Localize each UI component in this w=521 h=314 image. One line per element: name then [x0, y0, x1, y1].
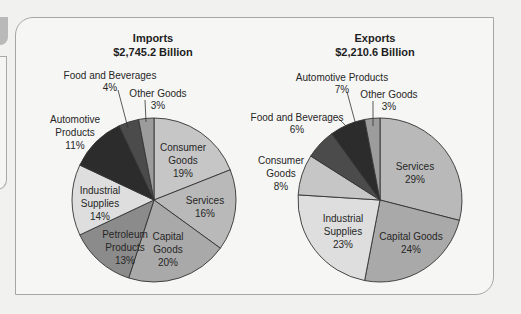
- exports-total: $2,210.6 Billion: [335, 46, 415, 58]
- exports-pie: [298, 118, 462, 282]
- label-other: Other Goods3%: [129, 88, 186, 111]
- imports-chart: Imports $2,745.2 Billion Food and Bevera…: [50, 32, 236, 282]
- label-other: Other Goods3%: [360, 89, 417, 112]
- exports-chart: Exports $2,210.6 Billion Automotive Prod…: [251, 32, 462, 282]
- imports-title: Imports: [133, 32, 173, 44]
- label-consumer: ConsumerGoods8%: [258, 155, 305, 192]
- imports-total: $2,745.2 Billion: [113, 46, 193, 58]
- pie-charts: Imports $2,745.2 Billion Food and Bevera…: [0, 0, 521, 314]
- exports-title: Exports: [355, 32, 396, 44]
- leader-line: [118, 90, 128, 128]
- label-food: Food and Beverages6%: [251, 112, 344, 135]
